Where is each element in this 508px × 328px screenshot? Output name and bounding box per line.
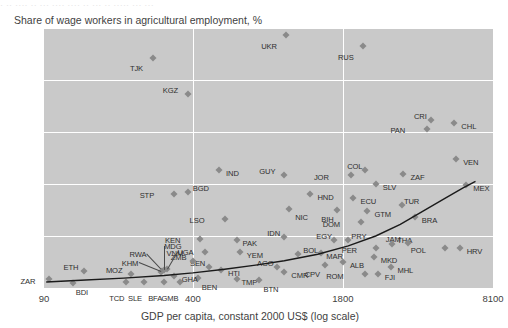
- scatter-point[interactable]: [359, 43, 366, 50]
- point-label: BGD: [193, 184, 209, 193]
- scatter-point[interactable]: [161, 278, 168, 285]
- scatter-point[interactable]: [184, 188, 191, 195]
- point-label: COL: [347, 162, 362, 171]
- scatter-point[interactable]: [364, 208, 371, 215]
- point-label: ROM: [326, 272, 343, 281]
- point-label: BOL: [303, 246, 318, 255]
- point-label: CMR: [291, 271, 308, 280]
- point-label: SLV: [383, 183, 397, 192]
- point-label: HRV: [467, 247, 483, 256]
- scatter-point[interactable]: [441, 244, 448, 251]
- point-label: AGO: [257, 259, 274, 268]
- x-axis-tick-label: 90: [21, 293, 67, 304]
- scatter-point[interactable]: [236, 248, 243, 255]
- point-label: MOZ: [106, 266, 123, 275]
- scatter-point[interactable]: [372, 180, 379, 187]
- scatter-point[interactable]: [69, 279, 76, 286]
- x-axis-tick-label: 8100: [470, 293, 508, 304]
- point-label: TJK: [130, 64, 143, 73]
- point-label: ALB: [350, 261, 364, 270]
- point-label: CRI: [414, 112, 427, 121]
- scatter-point[interactable]: [362, 166, 369, 173]
- scatter-point[interactable]: [451, 119, 458, 126]
- scatter-point[interactable]: [46, 275, 53, 282]
- point-label: LSO: [190, 216, 205, 225]
- scatter-point[interactable]: [140, 278, 147, 285]
- scatter-point[interactable]: [281, 269, 288, 276]
- scatter-point[interactable]: [321, 261, 328, 268]
- scatter-point[interactable]: [217, 266, 224, 273]
- point-label: STP: [140, 191, 154, 200]
- point-label: ZAR: [20, 277, 35, 286]
- scatter-point[interactable]: [233, 236, 240, 243]
- scatter-point[interactable]: [456, 244, 463, 251]
- point-label: JAM: [386, 235, 401, 244]
- point-label: MDG: [164, 242, 181, 251]
- scatter-point[interactable]: [334, 206, 341, 213]
- scatter-point[interactable]: [347, 171, 354, 178]
- scatter-point[interactable]: [400, 170, 407, 177]
- scatter-point[interactable]: [362, 270, 369, 277]
- point-label: MHL: [398, 266, 414, 275]
- point-label: PRY: [351, 232, 366, 241]
- scatter-point[interactable]: [281, 171, 288, 178]
- point-label: RWA: [129, 250, 146, 259]
- point-label: JOR: [314, 173, 329, 182]
- point-label: TUR: [404, 197, 419, 206]
- point-label: ETH: [63, 263, 78, 272]
- scatter-point[interactable]: [201, 248, 208, 255]
- scatter-point[interactable]: [184, 91, 191, 98]
- gridline-horizontal: [44, 184, 493, 185]
- gridline-horizontal: [44, 80, 493, 81]
- point-label: CHL: [461, 122, 476, 131]
- scatter-point[interactable]: [357, 218, 364, 225]
- scatter-point[interactable]: [374, 270, 381, 277]
- scatter-point[interactable]: [370, 253, 377, 260]
- gridline-vertical: [493, 28, 494, 288]
- point-label: GTM: [374, 210, 391, 219]
- scatter-point[interactable]: [170, 191, 177, 198]
- scatter-point[interactable]: [123, 278, 130, 285]
- x-axis-tick-label: 1800: [320, 293, 366, 304]
- scatter-point[interactable]: [281, 234, 288, 241]
- scatter-point[interactable]: [387, 264, 394, 271]
- scatter-point[interactable]: [205, 264, 212, 271]
- scatter-point[interactable]: [463, 182, 470, 189]
- point-label: MEX: [473, 184, 489, 193]
- scatter-point[interactable]: [350, 195, 357, 202]
- scatter-point[interactable]: [372, 244, 379, 251]
- scatter-point[interactable]: [283, 31, 290, 38]
- point-label: BEN: [202, 283, 217, 292]
- point-label: DOM: [323, 220, 340, 229]
- point-label: BDI: [76, 288, 88, 297]
- gridline-horizontal: [44, 28, 493, 29]
- scatter-point[interactable]: [215, 166, 222, 173]
- scatter-point[interactable]: [411, 213, 418, 220]
- scatter-point[interactable]: [149, 54, 156, 61]
- point-label: IND: [226, 169, 239, 178]
- scatter-point[interactable]: [307, 191, 314, 198]
- point-label: ECU: [360, 197, 376, 206]
- scatter-point[interactable]: [286, 205, 293, 212]
- scatter-point[interactable]: [295, 251, 302, 258]
- point-label: POL: [411, 246, 426, 255]
- x-axis-tick-label: 400: [170, 293, 216, 304]
- scatter-point[interactable]: [453, 156, 460, 163]
- point-label: SLE: [128, 294, 142, 303]
- point-label: EGY: [316, 232, 332, 241]
- scatter-point[interactable]: [221, 216, 228, 223]
- scatter-point[interactable]: [318, 249, 325, 256]
- point-label: HND: [317, 193, 333, 202]
- scatter-point[interactable]: [273, 264, 280, 271]
- scatter-point[interactable]: [427, 117, 434, 124]
- point-label: VEN: [463, 158, 478, 167]
- scatter-point[interactable]: [81, 268, 88, 275]
- scatter-point[interactable]: [127, 270, 134, 277]
- x-axis-title: GDP per capita, constant 2000 US$ (log s…: [0, 310, 500, 322]
- scatter-point[interactable]: [170, 273, 177, 280]
- point-label: IDN: [267, 229, 280, 238]
- point-label: RUS: [338, 53, 354, 62]
- scatter-point[interactable]: [339, 258, 346, 265]
- point-label: TCD: [109, 294, 124, 303]
- point-label: NIC: [295, 213, 308, 222]
